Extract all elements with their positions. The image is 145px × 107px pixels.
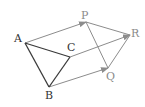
segment-QR [108, 35, 130, 68]
segment-PQ [86, 22, 108, 68]
arrow-C-to-R [70, 35, 130, 57]
label-A: A [13, 32, 23, 45]
segment-PR [86, 22, 130, 35]
label-Q: Q [106, 70, 115, 83]
arrow-A-to-P [25, 22, 86, 43]
translation-diagram: A B C P Q R [0, 0, 145, 107]
segment-BC [49, 57, 70, 87]
label-B: B [45, 89, 53, 102]
label-C: C [67, 41, 75, 54]
label-P: P [81, 9, 89, 22]
arrow-B-to-Q [49, 68, 108, 87]
label-R: R [131, 27, 140, 40]
